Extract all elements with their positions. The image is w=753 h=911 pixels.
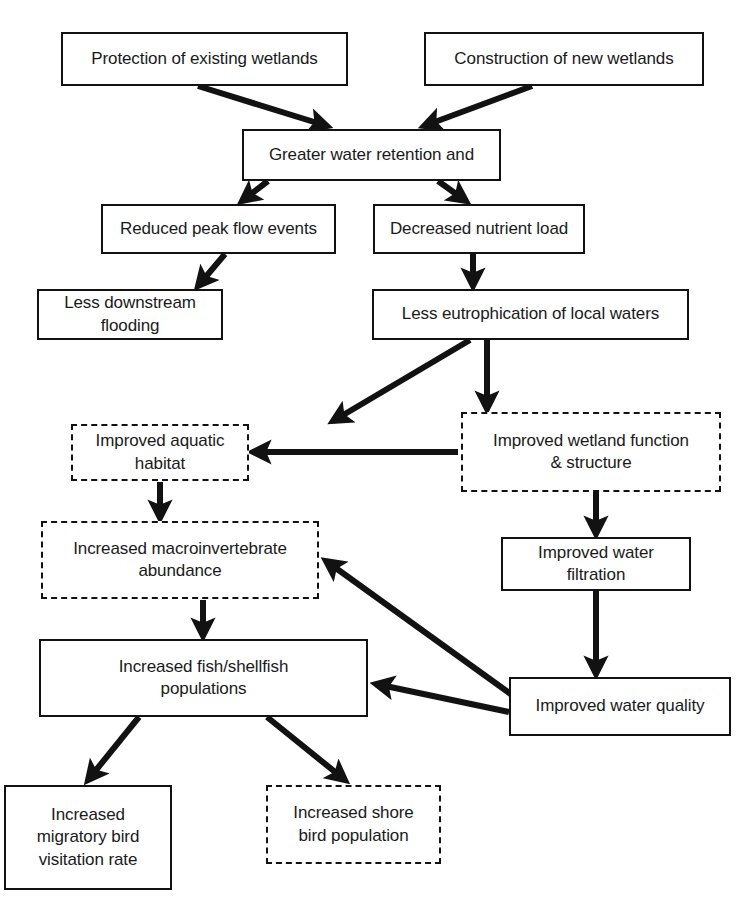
node-construction: Construction of new wetlands — [424, 32, 704, 86]
arrow-protection-to-retention — [198, 86, 327, 126]
arrow-water_quality-to-fish_shellfish — [376, 684, 509, 712]
node-migratory_bird: Increased migratory bird visitation rate — [4, 785, 172, 890]
arrow-retention-to-peak_flow — [242, 181, 268, 201]
node-nutrient_load: Decreased nutrient load — [373, 204, 585, 254]
node-label-retention: Greater water retention and — [269, 144, 474, 166]
node-label-wetland_function: Improved wetland function & structure — [493, 430, 689, 475]
node-wetland_function: Improved wetland function & structure — [461, 412, 721, 492]
node-label-water_quality: Improved water quality — [536, 695, 705, 717]
node-fish_shellfish: Increased fish/shellfish populations — [39, 639, 368, 717]
node-shore_bird: Increased shore bird population — [266, 785, 441, 864]
node-label-water_filtration: Improved water filtration — [509, 542, 683, 587]
node-label-macroinvertebrate: Increased macroinvertebrate abundance — [73, 538, 287, 583]
node-label-nutrient_load: Decreased nutrient load — [390, 218, 568, 240]
node-label-migratory_bird: Increased migratory bird visitation rate — [37, 804, 140, 871]
node-label-flooding: Less downstream flooding — [45, 292, 215, 337]
arrow-fish_shellfish-to-shore_bird — [267, 717, 345, 780]
node-eutrophication: Less eutrophication of local waters — [372, 289, 689, 340]
node-label-protection: Protection of existing wetlands — [91, 48, 318, 70]
node-label-aquatic_habitat: Improved aquatic habitat — [79, 430, 241, 475]
node-macroinvertebrate: Increased macroinvertebrate abundance — [41, 521, 319, 599]
node-retention: Greater water retention and — [242, 129, 501, 181]
arrow-fish_shellfish-to-migratory_bird — [88, 717, 139, 780]
node-peak_flow: Reduced peak flow events — [101, 204, 336, 254]
arrow-peak_flow-to-flooding — [198, 254, 225, 286]
arrow-eutrophication-to-aquatic_habitat — [333, 340, 470, 421]
node-label-peak_flow: Reduced peak flow events — [120, 218, 317, 240]
node-water_quality: Improved water quality — [509, 677, 731, 736]
arrow-retention-to-nutrient_load — [438, 181, 466, 201]
node-label-fish_shellfish: Increased fish/shellfish populations — [119, 656, 289, 701]
node-label-eutrophication: Less eutrophication of local waters — [402, 303, 659, 325]
node-label-construction: Construction of new wetlands — [454, 48, 673, 70]
node-flooding: Less downstream flooding — [37, 289, 223, 340]
node-protection: Protection of existing wetlands — [61, 32, 348, 86]
node-water_filtration: Improved water filtration — [501, 537, 691, 591]
node-aquatic_habitat: Improved aquatic habitat — [71, 424, 249, 481]
flowchart-diagram: Protection of existing wetlandsConstruct… — [0, 0, 753, 911]
node-label-shore_bird: Increased shore bird population — [293, 802, 413, 847]
arrow-construction-to-retention — [424, 86, 532, 126]
